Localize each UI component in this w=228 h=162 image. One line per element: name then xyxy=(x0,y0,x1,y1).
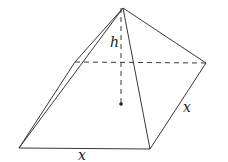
edge-apex-front-left xyxy=(19,8,123,148)
edge-base-back-hidden xyxy=(75,62,206,63)
height-label: h xyxy=(110,35,119,49)
pyramid-figure xyxy=(0,0,228,162)
edge-base-right xyxy=(150,63,206,149)
pyramid-diagram: h x x xyxy=(0,0,228,162)
edge-back-left-front-left xyxy=(19,62,75,148)
base-front-label: x xyxy=(78,148,86,162)
base-side-label: x xyxy=(183,100,191,114)
edge-apex-back-right xyxy=(123,8,206,63)
base-center-point xyxy=(119,102,123,106)
edge-apex-front-right xyxy=(123,8,150,149)
